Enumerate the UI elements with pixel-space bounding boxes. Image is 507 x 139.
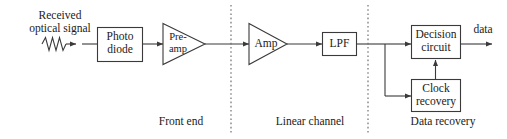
section-label-front-end: Front end — [136, 115, 226, 128]
clock-recovery-label-line1: Clock — [411, 82, 461, 95]
decision-circuit-label: Decision circuit — [411, 28, 461, 54]
lpf-label-line1: LPF — [322, 37, 357, 50]
decision-circuit-label-line2: circuit — [411, 41, 461, 54]
clock-recovery-label-line2: recovery — [411, 95, 461, 108]
clock-recovery-label: Clock recovery — [411, 82, 461, 108]
pre-amp-label: Pre- amp — [165, 31, 191, 55]
source-label-line1: Received — [17, 9, 103, 22]
source-label-line2: optical signal — [17, 22, 103, 35]
section-label-linear-channel: Linear channel — [255, 115, 365, 128]
received-optical-signal-label: Received optical signal — [17, 9, 103, 35]
diagram-canvas: Received optical signal Photo diode Pre-… — [0, 0, 507, 139]
amp-label-line1: Amp — [251, 37, 281, 50]
section-label-data-recovery: Data recovery — [388, 115, 498, 128]
lpf-label: LPF — [322, 37, 357, 50]
decision-circuit-label-line1: Decision — [411, 28, 461, 41]
pre-amp-label-line1: Pre- — [165, 31, 191, 43]
data-output-label: data — [466, 23, 500, 36]
photo-diode-label-line1: Photo — [97, 30, 143, 43]
amp-label: Amp — [251, 37, 281, 50]
photo-diode-label-line2: diode — [97, 43, 143, 56]
wavy-signal-icon — [42, 38, 76, 51]
pre-amp-label-line2: amp — [165, 43, 191, 55]
photo-diode-label: Photo diode — [97, 30, 143, 56]
